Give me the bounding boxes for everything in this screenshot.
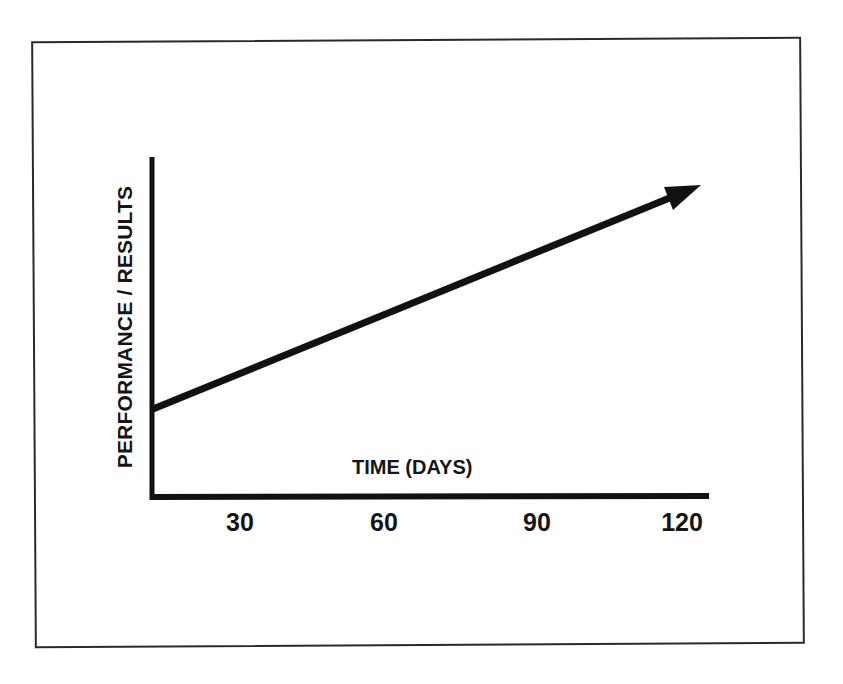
trend-arrow-shaft [153, 197, 672, 409]
x-tick-120: 120 [661, 508, 703, 537]
x-tick-60: 60 [370, 508, 398, 537]
y-axis-label: PERFORMANCE / RESULTS [113, 186, 137, 469]
x-axis-line [150, 496, 709, 497]
x-axis-label: TIME (DAYS) [352, 456, 472, 479]
x-tick-30: 30 [226, 508, 254, 537]
arrowhead-icon [664, 185, 701, 210]
x-tick-90: 90 [523, 508, 551, 537]
